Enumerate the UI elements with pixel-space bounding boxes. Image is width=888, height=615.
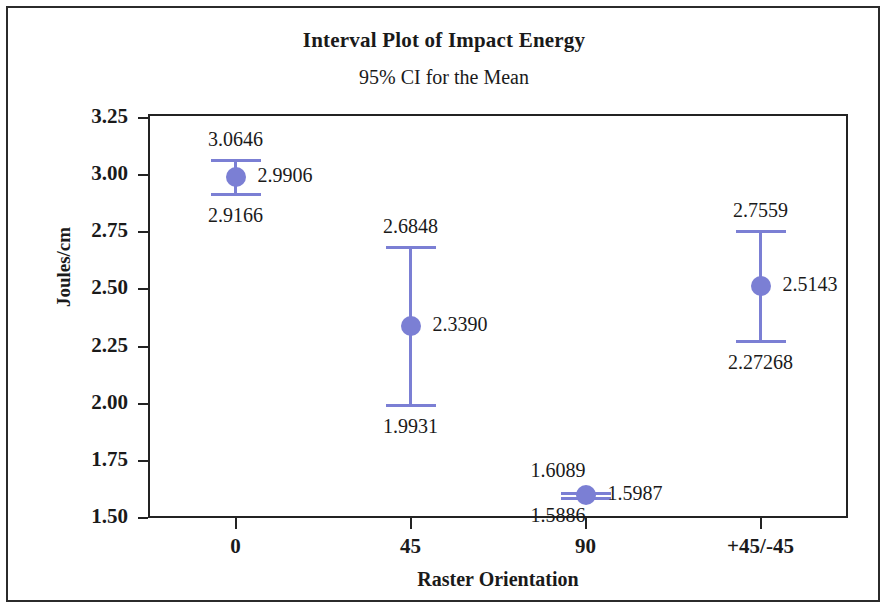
x-axis-label: Raster Orientation [148, 568, 848, 591]
plot-area [148, 114, 848, 518]
mean-marker [576, 485, 596, 505]
mean-value-label: 2.5143 [783, 273, 838, 296]
chart-title: Interval Plot of Impact Energy [0, 28, 888, 53]
ci-upper-cap [211, 159, 261, 162]
y-tick-mark [138, 231, 148, 233]
mean-marker [401, 316, 421, 336]
x-tick-label: 90 [506, 534, 666, 559]
y-tick-mark [138, 288, 148, 290]
x-tick-mark [235, 518, 237, 529]
x-tick-label: 45 [331, 534, 491, 559]
y-tick-label: 1.75 [91, 447, 128, 472]
x-tick-mark [410, 518, 412, 529]
ci-lower-cap [386, 404, 436, 407]
mean-value-label: 2.9906 [258, 164, 313, 187]
lower-bound-label: 2.27268 [671, 351, 851, 374]
y-tick-mark [138, 517, 148, 519]
ci-upper-cap [736, 230, 786, 233]
chart-subtitle: 95% CI for the Mean [0, 66, 888, 89]
x-tick-label: 0 [156, 534, 316, 559]
y-tick-label: 2.00 [91, 390, 128, 415]
mean-marker [751, 276, 771, 296]
upper-bound-label: 3.0646 [146, 128, 326, 151]
interval-plot-figure: Interval Plot of Impact Energy 95% CI fo… [0, 0, 888, 615]
mean-value-label: 1.5987 [608, 482, 663, 505]
x-tick-label: +45/-45 [681, 534, 841, 559]
y-tick-label: 2.50 [91, 275, 128, 300]
mean-value-label: 2.3390 [433, 313, 488, 336]
y-tick-label: 1.50 [91, 504, 128, 529]
y-tick-label: 2.25 [91, 333, 128, 358]
ci-lower-cap [736, 340, 786, 343]
y-tick-label: 3.25 [91, 104, 128, 129]
y-tick-mark [138, 346, 148, 348]
y-tick-mark [138, 117, 148, 119]
y-tick-mark [138, 403, 148, 405]
lower-bound-label: 1.5886 [426, 504, 586, 527]
upper-bound-label: 2.7559 [671, 199, 851, 222]
lower-bound-label: 2.9166 [146, 204, 326, 227]
y-tick-mark [138, 174, 148, 176]
y-tick-mark [138, 460, 148, 462]
upper-bound-label: 2.6848 [321, 215, 501, 238]
ci-lower-cap [211, 193, 261, 196]
upper-bound-label: 1.6089 [426, 459, 586, 482]
ci-upper-cap [386, 246, 436, 249]
mean-marker [226, 167, 246, 187]
y-tick-label: 3.00 [91, 161, 128, 186]
y-tick-label: 2.75 [91, 218, 128, 243]
y-axis-label: Joules/cm [53, 197, 75, 337]
x-tick-mark [760, 518, 762, 529]
lower-bound-label: 1.9931 [321, 415, 501, 438]
